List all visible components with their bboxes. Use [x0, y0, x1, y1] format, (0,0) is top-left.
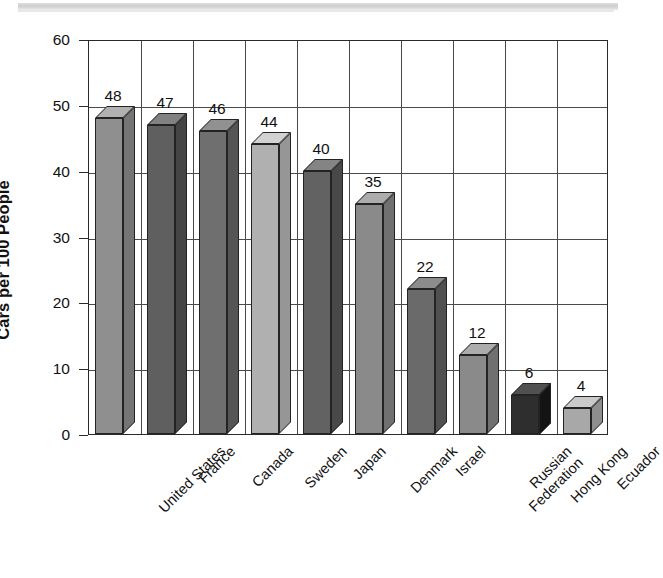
y-axis-tick-label: 0	[14, 426, 70, 444]
bar-front-face	[147, 125, 175, 434]
bar-front-face	[407, 289, 435, 434]
bar-side-face	[227, 119, 239, 434]
bar-front-face	[251, 144, 279, 434]
bar	[303, 171, 331, 434]
bar-side-face	[383, 192, 395, 434]
x-axis-category-label: Israel	[452, 443, 488, 479]
bar	[563, 408, 591, 434]
bar-side-face	[487, 343, 499, 434]
y-axis-tick-mark	[79, 172, 88, 173]
x-axis-category-label: Denmark	[407, 443, 460, 496]
gridline-vertical	[245, 41, 246, 434]
y-axis-tick-label: 50	[14, 97, 70, 115]
bar	[199, 131, 227, 434]
gridline-vertical	[453, 41, 454, 434]
bar-front-face	[199, 131, 227, 434]
bar	[355, 204, 383, 434]
bar-value-label: 12	[460, 324, 494, 342]
bar-value-label: 48	[96, 87, 130, 105]
gridline-vertical	[505, 41, 506, 434]
bar-front-face	[303, 171, 331, 434]
bar-front-face	[511, 395, 539, 435]
bar-value-label: 47	[148, 94, 182, 112]
y-axis-tick-label: 20	[14, 294, 70, 312]
bar-value-label: 4	[564, 377, 598, 395]
bar	[147, 125, 175, 434]
bar-value-label: 40	[304, 140, 338, 158]
gridline-vertical	[401, 41, 402, 434]
bar-side-face	[331, 159, 343, 434]
y-axis-tick-mark	[79, 435, 88, 436]
bar-side-face	[435, 277, 447, 434]
gridline-vertical	[193, 41, 194, 434]
bar-value-label: 6	[512, 364, 546, 382]
gridline-vertical	[557, 41, 558, 434]
y-axis-tick-label: 30	[14, 229, 70, 247]
x-axis-category-label: Japan	[350, 443, 389, 482]
gridline-vertical	[297, 41, 298, 434]
bar-value-label: 22	[408, 258, 442, 276]
bar	[511, 395, 539, 435]
x-axis-category-label: Russian Federation	[514, 443, 586, 515]
bar-front-face	[355, 204, 383, 434]
x-axis-category-label: Canada	[249, 443, 296, 490]
y-axis-tick-mark	[79, 106, 88, 107]
y-axis-tick-label: 10	[14, 360, 70, 378]
y-axis-title: Cars per 100 People	[0, 150, 13, 370]
x-axis-category-label: Sweden	[301, 443, 349, 491]
bar	[459, 355, 487, 434]
bar	[251, 144, 279, 434]
y-axis-tick-label: 40	[14, 163, 70, 181]
bar-front-face	[563, 408, 591, 434]
bar-front-face	[95, 118, 123, 434]
y-axis-tick-mark	[79, 40, 88, 41]
gridline-vertical	[141, 41, 142, 434]
y-axis-tick-label: 60	[14, 31, 70, 49]
y-axis-tick-mark	[79, 369, 88, 370]
y-axis-tick-mark	[79, 238, 88, 239]
bar-value-label: 46	[200, 100, 234, 118]
bar-front-face	[459, 355, 487, 434]
bar	[407, 289, 435, 434]
bar-side-face	[279, 132, 291, 434]
y-axis-tick-mark	[79, 303, 88, 304]
bar	[95, 118, 123, 434]
bar-side-face	[175, 113, 187, 434]
bar-side-face	[123, 106, 135, 434]
gridline-vertical	[349, 41, 350, 434]
bar-value-label: 44	[252, 113, 286, 131]
bar-value-label: 35	[356, 173, 390, 191]
